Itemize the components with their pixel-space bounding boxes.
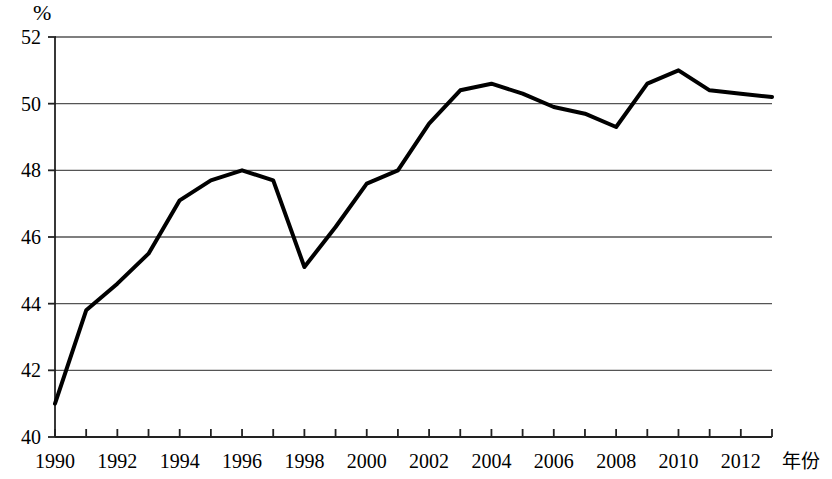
y-tick-label: 46	[7, 227, 41, 247]
y-tick-label: 42	[7, 360, 41, 380]
x-tick-marks-group	[55, 429, 772, 437]
y-tick-label: 48	[7, 160, 41, 180]
y-tick-label: 44	[7, 294, 41, 314]
line-chart: % 年份 40424446485052 19901992199419961998…	[0, 0, 832, 479]
y-axis-unit-label: %	[33, 2, 51, 24]
gridlines-group	[55, 37, 772, 370]
x-tick-label: 2012	[706, 451, 776, 471]
x-tick-label: 1998	[269, 451, 339, 471]
x-tick-label: 1996	[207, 451, 277, 471]
y-tick-label: 52	[7, 27, 41, 47]
x-axis-title: 年份	[782, 452, 820, 471]
x-tick-label: 2006	[519, 451, 589, 471]
x-tick-label: 2010	[643, 451, 713, 471]
x-tick-label: 1992	[82, 451, 152, 471]
x-tick-label: 1994	[145, 451, 215, 471]
x-tick-label: 1990	[20, 451, 90, 471]
x-tick-label: 2008	[581, 451, 651, 471]
y-tick-label: 40	[7, 427, 41, 447]
x-tick-label: 2000	[332, 451, 402, 471]
chart-canvas	[0, 0, 832, 479]
x-tick-label: 2002	[394, 451, 464, 471]
y-tick-label: 50	[7, 94, 41, 114]
x-tick-label: 2004	[456, 451, 526, 471]
